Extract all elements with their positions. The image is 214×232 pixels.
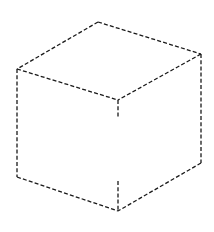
cube-diagram-canvas: [0, 0, 214, 232]
top-left-front-edge: [17, 69, 118, 100]
bottom-left-edge: [17, 177, 118, 211]
top-right-front-edge: [118, 54, 201, 100]
dashed-cube-drawing: [0, 0, 214, 232]
bottom-right-edge: [118, 163, 201, 211]
top-right-back-edge: [98, 22, 201, 54]
top-left-back-edge: [17, 22, 98, 69]
